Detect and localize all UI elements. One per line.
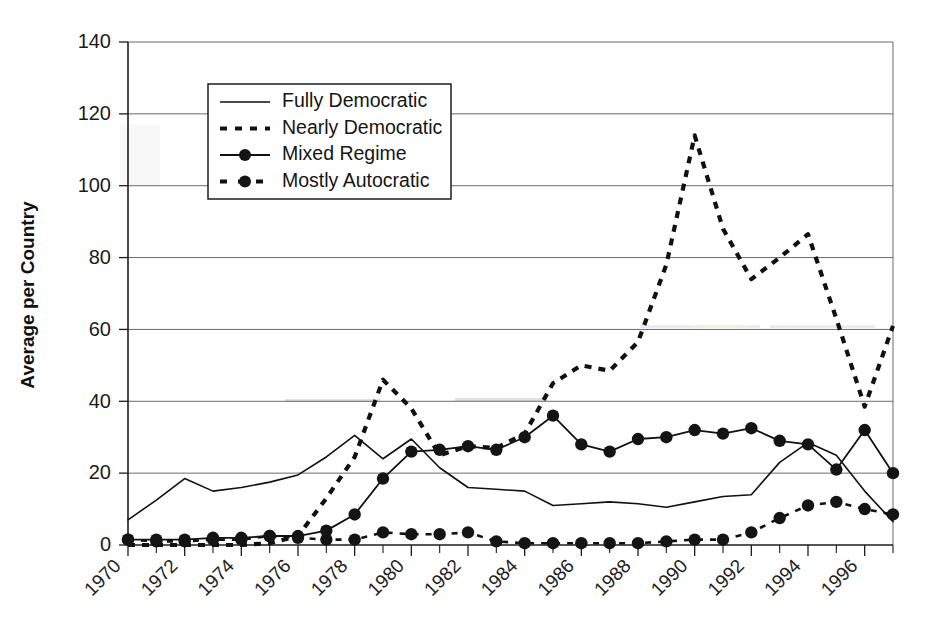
data-point-mostly-autocratic-1989	[660, 535, 672, 547]
data-point-mixed-regime-1988	[632, 433, 644, 445]
data-point-mixed-regime-1980	[405, 445, 417, 457]
data-point-mostly-autocratic-1981	[433, 528, 445, 540]
data-point-mostly-autocratic-1975	[263, 530, 275, 542]
data-point-mostly-autocratic-1970	[122, 533, 134, 545]
data-point-mixed-regime-1985	[547, 409, 559, 421]
data-point-mostly-autocratic-1991	[717, 533, 729, 545]
x-tick-label-1994: 1994	[760, 555, 805, 600]
legend-sample-marker	[239, 149, 251, 161]
data-point-mostly-autocratic-1978	[348, 533, 360, 545]
y-tick-label-60: 60	[89, 318, 111, 340]
data-point-mixed-regime-1995	[830, 463, 842, 475]
chart-figure: 020406080100120140 197019721974197619781…	[0, 0, 932, 634]
data-point-mostly-autocratic-1979	[377, 526, 389, 538]
y-tick-label-80: 80	[89, 246, 111, 268]
data-point-mixed-regime-1990	[688, 424, 700, 436]
data-point-mostly-autocratic-1994	[802, 499, 814, 511]
data-point-mostly-autocratic-1990	[688, 533, 700, 545]
data-point-mostly-autocratic-1982	[462, 526, 474, 538]
y-tick-label-20: 20	[89, 461, 111, 483]
data-point-mostly-autocratic-1995	[830, 496, 842, 508]
data-point-mixed-regime-1994	[802, 438, 814, 450]
data-point-mostly-autocratic-1977	[320, 533, 332, 545]
x-tick-label-1988: 1988	[590, 555, 635, 600]
x-tick-label-1978: 1978	[307, 555, 352, 600]
y-axis: 020406080100120140	[78, 30, 128, 555]
legend-sample-marker	[239, 176, 251, 188]
x-tick-label-1974: 1974	[193, 555, 238, 600]
y-tick-label-140: 140	[78, 30, 111, 52]
y-tick-label-120: 120	[78, 102, 111, 124]
y-tick-label-40: 40	[89, 390, 111, 412]
x-tick-label-1984: 1984	[477, 555, 522, 600]
data-point-mostly-autocratic-1996	[858, 503, 870, 515]
data-point-mostly-autocratic-1993	[773, 512, 785, 524]
data-point-mostly-autocratic-1983	[490, 535, 502, 547]
x-tick-label-1980: 1980	[363, 555, 408, 600]
data-point-mostly-autocratic-1973	[207, 533, 219, 545]
x-tick-label-1982: 1982	[420, 555, 465, 600]
data-point-mostly-autocratic-1984	[518, 537, 530, 549]
data-point-mostly-autocratic-1980	[405, 528, 417, 540]
data-point-mixed-regime-1983	[490, 444, 502, 456]
x-tick-label-1976: 1976	[250, 555, 295, 600]
data-point-mostly-autocratic-1987	[603, 537, 615, 549]
data-point-mixed-regime-1984	[518, 431, 530, 443]
data-point-mixed-regime-1978	[348, 508, 360, 520]
data-point-mixed-regime-1989	[660, 431, 672, 443]
legend-label: Mostly Autocratic	[282, 169, 430, 191]
data-point-mostly-autocratic-1974	[235, 533, 247, 545]
series-line-fully-democratic	[128, 435, 893, 521]
legend-label: Nearly Democratic	[282, 116, 443, 138]
x-tick-label-1996: 1996	[817, 555, 862, 600]
data-point-mixed-regime-1981	[433, 444, 445, 456]
data-point-mixed-regime-1979	[377, 472, 389, 484]
legend-label: Fully Democratic	[282, 89, 427, 111]
x-tick-label-1986: 1986	[533, 555, 578, 600]
y-axis-title: Average per Country	[17, 201, 38, 389]
y-tick-label-100: 100	[78, 174, 111, 196]
chart-legend: Fully DemocraticNearly DemocraticMixed R…	[208, 84, 451, 199]
data-point-mixed-regime-1997	[887, 467, 899, 479]
x-tick-label-1972: 1972	[137, 555, 182, 600]
line-chart-canvas: 020406080100120140 197019721974197619781…	[0, 0, 932, 634]
data-point-mixed-regime-1992	[745, 422, 757, 434]
data-point-mostly-autocratic-1971	[150, 535, 162, 547]
data-point-mostly-autocratic-1988	[632, 537, 644, 549]
legend-label: Mixed Regime	[282, 142, 407, 164]
data-point-mostly-autocratic-1972	[178, 535, 190, 547]
data-point-mixed-regime-1982	[462, 440, 474, 452]
data-point-mixed-regime-1996	[858, 424, 870, 436]
data-point-mixed-regime-1987	[603, 445, 615, 457]
y-tick-label-0: 0	[100, 533, 111, 555]
data-point-mostly-autocratic-1992	[745, 526, 757, 538]
data-point-mostly-autocratic-1985	[547, 537, 559, 549]
data-point-mixed-regime-1991	[717, 427, 729, 439]
data-point-mostly-autocratic-1997	[887, 508, 899, 520]
x-axis: 1970197219741976197819801982198419861988…	[80, 545, 893, 600]
data-point-mixed-regime-1993	[773, 435, 785, 447]
data-point-mostly-autocratic-1986	[575, 537, 587, 549]
data-point-mostly-autocratic-1976	[292, 532, 304, 544]
x-tick-label-1970: 1970	[80, 555, 125, 600]
x-tick-label-1990: 1990	[647, 555, 692, 600]
x-tick-label-1992: 1992	[703, 555, 748, 600]
data-point-mixed-regime-1986	[575, 438, 587, 450]
